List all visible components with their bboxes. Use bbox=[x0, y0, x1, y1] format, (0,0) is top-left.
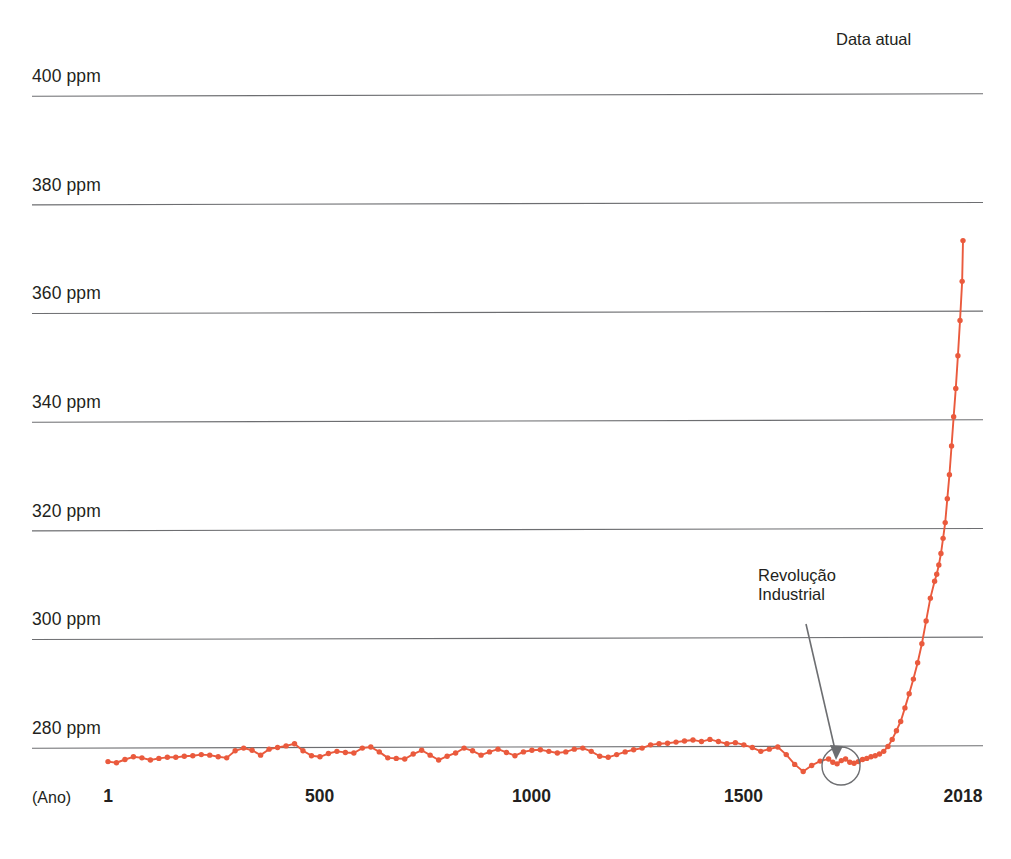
data-point bbox=[733, 740, 738, 745]
data-point bbox=[521, 749, 526, 754]
gridline bbox=[32, 94, 983, 96]
data-point bbox=[461, 745, 466, 750]
data-point bbox=[707, 737, 712, 742]
data-point bbox=[934, 572, 939, 577]
data-point bbox=[589, 749, 594, 754]
data-point bbox=[949, 443, 954, 448]
data-point bbox=[690, 737, 695, 742]
data-point bbox=[360, 745, 365, 750]
data-point bbox=[487, 749, 492, 754]
data-point bbox=[249, 748, 254, 753]
x-axis-tick-label: 1500 bbox=[724, 786, 763, 807]
data-point bbox=[758, 749, 763, 754]
gridline bbox=[32, 528, 983, 530]
data-point bbox=[580, 745, 585, 750]
data-point bbox=[890, 737, 895, 742]
annotation-industrial-revolution: Revolução Industrial bbox=[758, 566, 836, 605]
data-point bbox=[232, 748, 237, 753]
data-point bbox=[572, 746, 577, 751]
plot-area bbox=[0, 0, 1011, 859]
data-point bbox=[784, 752, 789, 757]
data-point bbox=[960, 238, 965, 243]
data-point bbox=[105, 759, 110, 764]
data-point bbox=[943, 520, 948, 525]
data-point bbox=[427, 752, 432, 757]
x-axis-tick-label: 2018 bbox=[944, 786, 983, 807]
data-point bbox=[504, 750, 509, 755]
data-point bbox=[368, 744, 373, 749]
data-point bbox=[351, 750, 356, 755]
data-point bbox=[656, 741, 661, 746]
data-point bbox=[148, 757, 153, 762]
data-point bbox=[512, 753, 517, 758]
data-point bbox=[775, 744, 780, 749]
data-point bbox=[292, 741, 297, 746]
data-point bbox=[834, 761, 839, 766]
data-point bbox=[470, 748, 475, 753]
data-point bbox=[699, 739, 704, 744]
data-point bbox=[444, 754, 449, 759]
data-point bbox=[614, 752, 619, 757]
data-point bbox=[902, 705, 907, 710]
data-point bbox=[173, 755, 178, 760]
data-point bbox=[885, 744, 890, 749]
data-point bbox=[959, 279, 964, 284]
data-point bbox=[139, 755, 144, 760]
annotation-current-data: Data atual bbox=[836, 30, 911, 49]
data-point bbox=[156, 756, 161, 761]
data-point bbox=[682, 738, 687, 743]
y-axis-tick-label: 380 ppm bbox=[32, 175, 101, 196]
data-point bbox=[326, 751, 331, 756]
y-axis-tick-label: 340 ppm bbox=[32, 392, 101, 413]
data-point bbox=[932, 579, 937, 584]
data-point bbox=[495, 746, 500, 751]
data-point bbox=[800, 769, 805, 774]
data-point bbox=[275, 745, 280, 750]
data-point bbox=[283, 743, 288, 748]
gridlines bbox=[32, 94, 983, 748]
data-point bbox=[947, 472, 952, 477]
data-point bbox=[546, 749, 551, 754]
gridline bbox=[32, 202, 983, 204]
data-point bbox=[478, 752, 483, 757]
data-point bbox=[724, 741, 729, 746]
data-point bbox=[767, 746, 772, 751]
data-point bbox=[953, 386, 958, 391]
data-point bbox=[826, 756, 831, 761]
data-point bbox=[266, 746, 271, 751]
y-axis-tick-label: 280 ppm bbox=[32, 718, 101, 739]
data-point bbox=[216, 754, 221, 759]
data-point bbox=[919, 641, 924, 646]
series-polyline bbox=[108, 241, 963, 772]
data-point bbox=[792, 762, 797, 767]
co2-chart: · · ···· ·· 280 ppm300 ppm320 ppm340 ppm… bbox=[0, 0, 1011, 859]
data-point bbox=[131, 754, 136, 759]
data-point bbox=[309, 753, 314, 758]
series-points bbox=[105, 238, 965, 774]
data-point bbox=[453, 750, 458, 755]
data-point bbox=[750, 745, 755, 750]
y-axis-tick-label: 360 ppm bbox=[32, 283, 101, 304]
data-point bbox=[207, 752, 212, 757]
data-point bbox=[906, 691, 911, 696]
data-point bbox=[631, 747, 636, 752]
data-point bbox=[957, 318, 962, 323]
data-point bbox=[182, 754, 187, 759]
x-axis-tick-label: 1 bbox=[103, 786, 113, 807]
data-point bbox=[945, 496, 950, 501]
data-point bbox=[881, 749, 886, 754]
data-point bbox=[419, 748, 424, 753]
data-point bbox=[951, 414, 956, 419]
x-axis-tick-label: 1000 bbox=[512, 786, 551, 807]
gridline bbox=[32, 637, 983, 639]
x-axis-tick-label: 500 bbox=[305, 786, 334, 807]
data-point bbox=[639, 745, 644, 750]
data-point bbox=[923, 618, 928, 623]
data-point bbox=[343, 750, 348, 755]
data-point bbox=[940, 536, 945, 541]
data-point bbox=[597, 754, 602, 759]
data-point bbox=[199, 752, 204, 757]
data-point bbox=[665, 741, 670, 746]
data-point bbox=[122, 757, 127, 762]
data-point bbox=[622, 749, 627, 754]
